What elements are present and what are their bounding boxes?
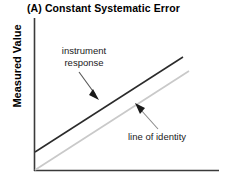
annotation-instrument-response-line2: response [51, 57, 117, 69]
line-of-identity [35, 71, 189, 170]
plot-area [0, 0, 231, 178]
figure-panel-a: (A) Constant Systematic Error Measured V… [0, 0, 231, 178]
annotation-instrument-response-line1: instrument [51, 45, 117, 57]
annotation-instrument-response: instrument response [51, 45, 117, 69]
annotation-line-of-identity: line of identity [128, 131, 186, 143]
line-of-identity-leader [141, 110, 158, 129]
instrument-response-arrowhead [89, 89, 99, 100]
